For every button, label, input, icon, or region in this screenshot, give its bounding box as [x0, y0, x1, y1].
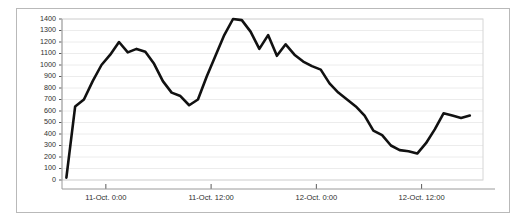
- x-tick-label-2: 12-Oct. 0:00: [295, 193, 337, 202]
- y-tick-label-900: 900: [44, 71, 56, 80]
- chart-plot-area: 0100200300400500600700800900100011001200…: [17, 9, 509, 212]
- axis-lines-group: [62, 19, 495, 189]
- chart-figure: 0100200300400500600700800900100011001200…: [16, 8, 510, 213]
- x-tick-label-1: 11-Oct. 12:00: [188, 193, 233, 202]
- series-line-1: [66, 19, 469, 178]
- y-tick-label-0: 0: [52, 175, 56, 184]
- y-tick-label-800: 800: [44, 83, 56, 92]
- y-tick-labels-group: 0100200300400500600700800900100011001200…: [40, 14, 56, 184]
- y-tick-label-1000: 1000: [40, 60, 56, 69]
- y-tick-label-400: 400: [44, 129, 56, 138]
- x-tick-label-3: 12-Oct. 12:00: [399, 193, 445, 202]
- y-tick-label-1300: 1300: [40, 25, 56, 34]
- x-tick-label-0: 11-Oct. 0:00: [85, 193, 126, 202]
- y-tick-label-1100: 1100: [41, 48, 56, 57]
- data-series-group: [66, 19, 469, 178]
- y-tick-label-300: 300: [44, 140, 56, 149]
- x-tick-marks-group: [106, 184, 422, 189]
- y-tick-label-500: 500: [44, 117, 56, 126]
- y-tick-label-1200: 1200: [40, 37, 56, 46]
- y-tick-label-200: 200: [44, 152, 56, 161]
- y-tick-label-700: 700: [44, 94, 56, 103]
- x-tick-labels-group: 11-Oct. 0:0011-Oct. 12:0012-Oct. 0:0012-…: [85, 193, 444, 202]
- y-tick-label-100: 100: [44, 163, 56, 172]
- y-tick-label-600: 600: [44, 106, 56, 115]
- line-chart-svg: 0100200300400500600700800900100011001200…: [17, 9, 509, 212]
- y-tick-label-1400: 1400: [40, 14, 56, 23]
